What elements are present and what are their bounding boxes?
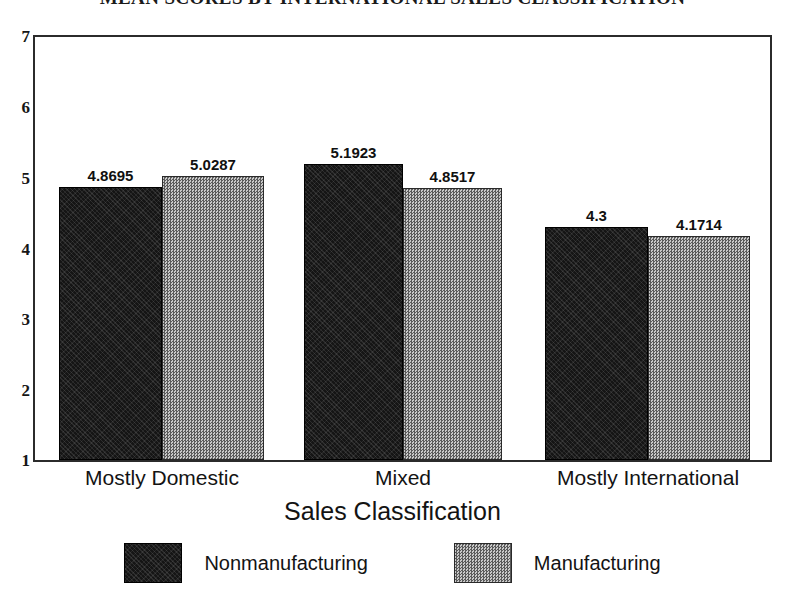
bar-nonmanufacturing-mostly-international[interactable]: 4.3 [545,227,648,460]
bar-group: 5.1923 4.8517 [304,37,502,460]
bar-manufacturing-mostly-international[interactable]: 4.1714 [648,236,750,460]
chart-legend: Nonmanufacturing Manufacturing [0,543,785,583]
bar-value-label: 5.1923 [331,144,377,161]
chart-title: MEAN SCORES BY INTERNATIONAL SALES CLASS… [0,0,785,9]
y-tick-label: 6 [4,98,30,118]
y-tick-label: 5 [4,169,30,189]
bar-nonmanufacturing-mixed[interactable]: 5.1923 [304,164,403,460]
category-label-mostly-international: Mostly International [557,466,739,490]
y-tick-label: 7 [4,27,30,47]
bar-value-label: 4.8517 [430,168,476,185]
bar-value-label: 4.1714 [676,216,722,233]
legend-entry-manufacturing[interactable]: Manufacturing [454,543,661,583]
x-axis-category-labels: Mostly Domestic Mixed Mostly Internation… [35,466,770,496]
dark-swatch-icon [124,543,182,583]
bar-value-label: 4.8695 [88,167,134,184]
y-tick-label: 3 [4,310,30,330]
x-axis-title: Sales Classification [0,497,785,526]
bar-chart-figure: MEAN SCORES BY INTERNATIONAL SALES CLASS… [0,0,785,599]
bars-layer: 4.8695 5.0287 5.1923 4.8517 4.3 4.1714 [35,37,770,460]
legend-entry-nonmanufacturing[interactable]: Nonmanufacturing [124,543,367,583]
category-label-mostly-domestic: Mostly Domestic [85,466,239,490]
bar-manufacturing-mixed[interactable]: 4.8517 [403,188,502,460]
legend-label: Manufacturing [534,552,661,575]
bar-value-label: 5.0287 [190,156,236,173]
bar-group: 4.3 4.1714 [545,37,750,460]
bar-group: 4.8695 5.0287 [59,37,264,460]
bar-nonmanufacturing-mostly-domestic[interactable]: 4.8695 [59,187,162,460]
category-label-mixed: Mixed [375,466,431,490]
y-tick-label: 4 [4,240,30,260]
bar-manufacturing-mostly-domestic[interactable]: 5.0287 [162,176,264,460]
y-tick-label: 1 [4,451,30,471]
legend-label: Nonmanufacturing [204,552,367,575]
y-tick-label: 2 [4,381,30,401]
gray-swatch-icon [454,543,512,583]
bar-value-label: 4.3 [586,207,607,224]
